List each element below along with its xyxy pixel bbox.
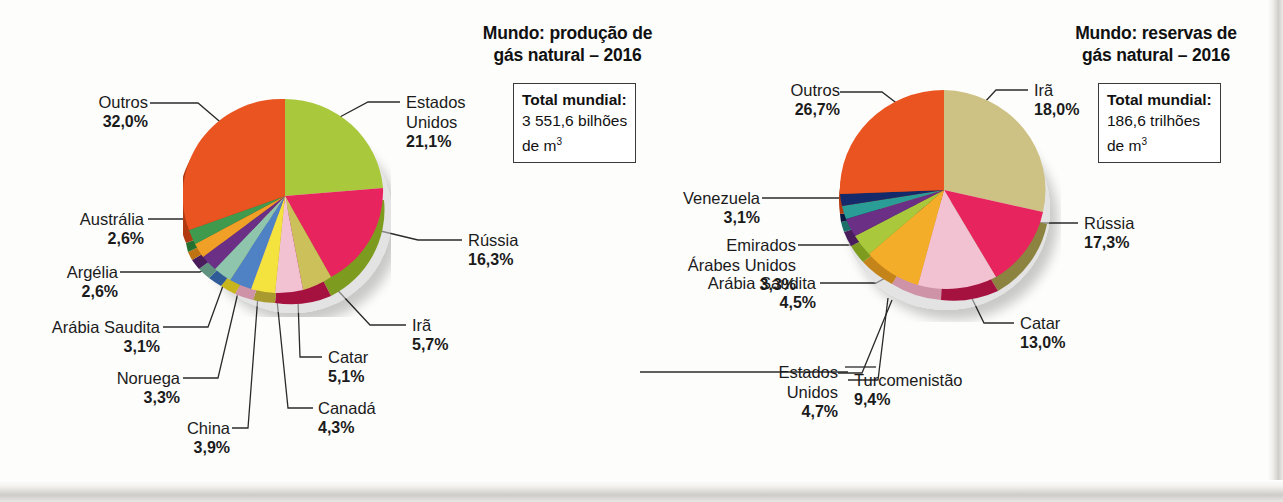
label-estados-unidos-reservas-name2: Unidos bbox=[700, 382, 838, 402]
label-outros-reservas-pct: 26,7% bbox=[700, 100, 840, 120]
label-canada-producao: Canadá 4,3% bbox=[318, 398, 428, 438]
label-catar-reservas-pct: 13,0% bbox=[1020, 333, 1120, 353]
label-outros-producao-pct: 32,0% bbox=[0, 112, 148, 132]
label-emirados-reservas-pct: 3,3% bbox=[646, 275, 796, 295]
total-value-reservas-line2: de m3 bbox=[1107, 131, 1212, 156]
label-argelia-producao-pct: 2,6% bbox=[8, 282, 118, 302]
label-outros-reservas: Outros 26,7% bbox=[700, 80, 840, 120]
label-russia-reservas-name: Rússia bbox=[1084, 214, 1134, 232]
label-catar-reservas: Catar 13,0% bbox=[1020, 313, 1120, 353]
chart-title-reservas-line2: gás natural – 2016 bbox=[1040, 44, 1272, 66]
label-estados-unidos-producao: Estados Unidos 21,1% bbox=[406, 92, 546, 152]
pie-producao-svg bbox=[183, 82, 391, 317]
label-catar-producao-name: Catar bbox=[328, 348, 368, 366]
page-edge-right bbox=[1267, 0, 1283, 502]
label-turcomenistao-reservas: Turcomenistão 9,4% bbox=[854, 370, 1034, 410]
label-russia-producao-pct: 16,3% bbox=[468, 250, 588, 270]
label-catar-producao-pct: 5,1% bbox=[328, 367, 428, 387]
label-ira-reservas: Irã 18,0% bbox=[1034, 80, 1124, 120]
scanned-page: Mundo: produção de gás natural – 2016 To… bbox=[0, 0, 1283, 502]
label-ira-producao-name: Irã bbox=[412, 316, 431, 334]
label-china-producao-pct: 3,9% bbox=[118, 438, 230, 458]
label-catar-producao: Catar 5,1% bbox=[328, 347, 428, 387]
chart-reservas-gas-natural: Mundo: reservas de gás natural – 2016 To… bbox=[640, 0, 1270, 470]
pie-reservas-svg bbox=[836, 72, 1061, 322]
chart-title-reservas-line1: Mundo: reservas de bbox=[1040, 22, 1272, 44]
label-emirados-reservas-name2: Árabes Unidos bbox=[646, 255, 796, 275]
label-emirados-reservas: Emirados Árabes Unidos 3,3% bbox=[646, 235, 796, 295]
page-edge-bottom bbox=[0, 480, 1283, 502]
label-outros-producao: Outros 32,0% bbox=[0, 92, 148, 132]
label-noruega-producao: Noruega 3,3% bbox=[48, 368, 180, 408]
label-arabia-saudita-producao-pct: 3,1% bbox=[2, 337, 160, 357]
label-arabia-saudita-producao-name: Arábia Saudita bbox=[52, 318, 160, 336]
label-australia-producao-name: Austrália bbox=[80, 210, 144, 228]
label-australia-producao-pct: 2,6% bbox=[16, 229, 144, 249]
chart-title-reservas: Mundo: reservas de gás natural – 2016 bbox=[1040, 22, 1272, 66]
label-estados-unidos-producao-name2: Unidos bbox=[406, 112, 546, 132]
label-canada-producao-name: Canadá bbox=[318, 399, 376, 417]
label-estados-unidos-reservas-pct: 4,7% bbox=[700, 402, 838, 422]
label-ira-reservas-name: Irã bbox=[1034, 81, 1053, 99]
label-ira-reservas-pct: 18,0% bbox=[1034, 100, 1124, 120]
chart-producao-gas-natural: Mundo: produção de gás natural – 2016 To… bbox=[0, 0, 660, 470]
label-outros-producao-name: Outros bbox=[98, 93, 148, 111]
label-russia-reservas-pct: 17,3% bbox=[1084, 233, 1204, 253]
label-canada-producao-pct: 4,3% bbox=[318, 418, 428, 438]
label-arabia-saudita-reservas-pct: 4,5% bbox=[654, 293, 816, 313]
pie-producao bbox=[183, 82, 391, 317]
label-china-producao-name: China bbox=[187, 419, 230, 437]
label-argelia-producao-name: Argélia bbox=[67, 263, 118, 281]
label-venezuela-reservas-name: Venezuela bbox=[683, 189, 760, 207]
label-estados-unidos-producao-name: Estados bbox=[406, 93, 466, 111]
label-noruega-producao-name: Noruega bbox=[117, 369, 180, 387]
label-argelia-producao: Argélia 2,6% bbox=[8, 262, 118, 302]
label-russia-producao-name: Rússia bbox=[468, 231, 518, 249]
label-russia-producao: Rússia 16,3% bbox=[468, 230, 588, 270]
label-venezuela-reservas-pct: 3,1% bbox=[642, 208, 760, 228]
label-estados-unidos-producao-pct: 21,1% bbox=[406, 132, 546, 152]
label-estados-unidos-reservas: Estados Unidos 4,7% bbox=[700, 362, 838, 422]
label-estados-unidos-reservas-name: Estados bbox=[778, 363, 838, 381]
pie-reservas bbox=[836, 72, 1061, 322]
label-australia-producao: Austrália 2,6% bbox=[16, 209, 144, 249]
label-turcomenistao-reservas-name: Turcomenistão bbox=[854, 371, 963, 389]
label-catar-reservas-name: Catar bbox=[1020, 314, 1060, 332]
label-noruega-producao-pct: 3,3% bbox=[48, 388, 180, 408]
label-arabia-saudita-producao: Arábia Saudita 3,1% bbox=[2, 317, 160, 357]
label-venezuela-reservas: Venezuela 3,1% bbox=[642, 188, 760, 228]
label-russia-reservas: Rússia 17,3% bbox=[1084, 213, 1204, 253]
label-outros-reservas-name: Outros bbox=[790, 81, 840, 99]
label-emirados-reservas-name: Emirados bbox=[726, 236, 796, 254]
label-turcomenistao-reservas-pct: 9,4% bbox=[854, 390, 1034, 410]
label-china-producao: China 3,9% bbox=[118, 418, 230, 458]
